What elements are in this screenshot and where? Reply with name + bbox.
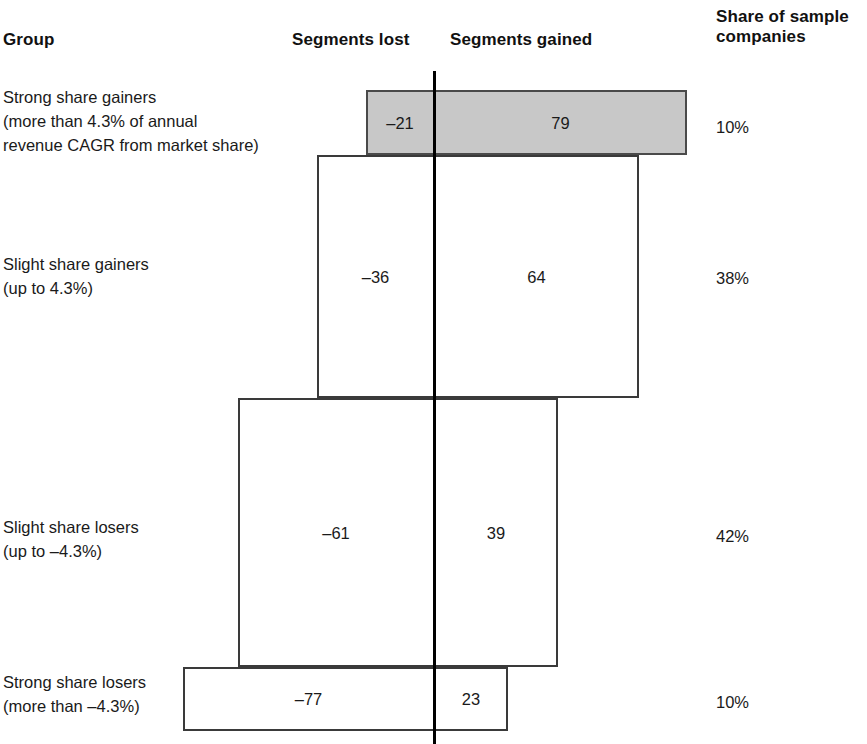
zero-axis-line [433, 71, 436, 744]
bar-value-lost: –77 [295, 690, 323, 708]
share-value: 38% [716, 268, 749, 288]
group-label-slight-share-losers: Slight share losers (up to –4.3%) [3, 515, 283, 563]
bar-value-lost: –61 [322, 524, 350, 542]
share-value: 10% [716, 692, 749, 712]
bar-value-lost: –21 [386, 114, 414, 132]
bar-value-gained: 64 [527, 268, 545, 286]
bar-strong-share-gainers [366, 90, 687, 155]
bar-value-gained: 39 [487, 524, 505, 542]
bar-slight-share-losers [238, 398, 558, 667]
share-value: 10% [716, 117, 749, 137]
share-value: 42% [716, 526, 749, 546]
chart-canvas: Group Segments lost Segments gained Shar… [0, 0, 867, 744]
group-label-strong-share-losers: Strong share losers (more than –4.3%) [3, 670, 283, 718]
bar-value-gained: 79 [551, 114, 569, 132]
bar-value-gained: 23 [462, 690, 480, 708]
group-label-strong-share-gainers: Strong share gainers (more than 4.3% of … [3, 85, 283, 157]
group-label-slight-share-gainers: Slight share gainers (up to 4.3%) [3, 252, 283, 300]
bar-value-lost: –36 [362, 268, 390, 286]
